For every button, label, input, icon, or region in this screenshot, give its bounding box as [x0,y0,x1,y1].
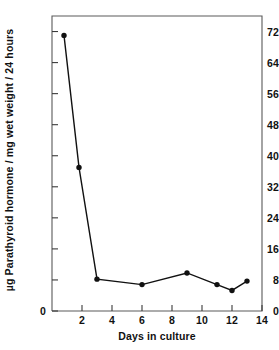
x-tick-label: 14 [247,314,277,326]
x-tick-label: 6 [127,314,157,326]
x-tick-label: 4 [97,314,127,326]
x-tick-label: 8 [157,314,187,326]
chart-figure: 081624324048566472 02468101214 µg Parath… [0,0,279,350]
x-tick-label: 10 [187,314,217,326]
y-axis-title: µg Parathyroid hormone / mg wet weight /… [0,10,18,310]
x-tick-label: 0 [28,305,58,317]
x-tick-label: 2 [67,314,97,326]
x-axis-tick-labels: 02468101214 [0,0,279,350]
x-axis-title: Days in culture [52,330,262,342]
x-tick-label: 12 [217,314,247,326]
